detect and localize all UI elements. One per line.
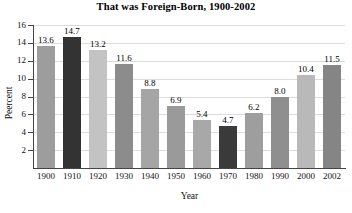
bar[interactable] [37,46,55,168]
x-tick-label: 1930 [111,171,137,181]
x-axis-title: Year [33,191,346,201]
y-tick-label: 16 [2,21,26,30]
y-tick-mark [28,114,33,115]
x-tick-label: 1950 [163,171,189,181]
bar-value-label: 13.2 [90,40,106,49]
bar-value-label: 6.9 [170,96,181,105]
y-tick-mark [28,79,33,80]
y-tick-mark [28,150,33,151]
bar-value-label: 5.4 [196,110,207,119]
x-tick-label: 1990 [267,171,293,181]
bar-group: 5.4 [193,25,211,168]
bar-group: 8.0 [271,25,289,168]
bar-group: 13.6 [37,25,55,168]
x-tick-label: 1910 [59,171,85,181]
y-tick-label: 4 [2,128,26,137]
x-tick-label: 2000 [293,171,319,181]
bar[interactable] [167,106,185,168]
x-tick-label: 1970 [215,171,241,181]
bar-value-label: 13.6 [38,36,54,45]
bar-chart-figure: That was Foreign-Born, 1900-2002 Peercen… [0,0,352,213]
bar-group: 8.8 [141,25,159,168]
bar-group: 10.4 [297,25,315,168]
y-tick-mark [28,97,33,98]
chart-title: That was Foreign-Born, 1900-2002 [0,1,352,12]
bar-value-label: 14.7 [64,27,80,36]
bar[interactable] [297,75,315,168]
bar-group: 13.2 [89,25,107,168]
bar-group: 11.6 [115,25,133,168]
bar-value-label: 4.7 [222,116,233,125]
y-tick-label: 6 [2,110,26,119]
bar[interactable] [245,113,263,168]
bar[interactable] [219,126,237,168]
y-tick-label: 2 [2,146,26,155]
x-tick-label: 1980 [241,171,267,181]
bar-value-label: 8.8 [144,79,155,88]
bar-value-label: 10.4 [298,65,314,74]
bar-group: 4.7 [219,25,237,168]
bar-value-label: 11.6 [116,54,131,63]
y-tick-label: 8 [2,92,26,101]
bar[interactable] [63,37,81,168]
x-tick-label: 1960 [189,171,215,181]
x-tick-label: 1900 [33,171,59,181]
bar-group: 11.5 [323,25,341,168]
bar-value-label: 11.5 [324,55,339,64]
bar-group: 6.2 [245,25,263,168]
bar-group: 6.9 [167,25,185,168]
y-tick-mark [28,25,33,26]
bar-value-label: 6.2 [248,103,259,112]
y-tick-mark [28,43,33,44]
y-axis-line [33,25,34,169]
x-axis-line [33,168,346,169]
bar[interactable] [323,65,341,168]
y-tick-label: 10 [2,74,26,83]
bar-group: 14.7 [63,25,81,168]
bar[interactable] [89,50,107,168]
bar[interactable] [141,89,159,168]
bar[interactable] [115,64,133,168]
y-tick-mark [28,132,33,133]
x-tick-label: 1940 [137,171,163,181]
x-tick-label: 1920 [85,171,111,181]
y-tick-label: 12 [2,56,26,65]
bar-value-label: 8.0 [274,87,285,96]
y-tick-label: 14 [2,38,26,47]
plot-area: 13.614.713.211.68.86.95.44.76.28.010.411… [33,25,345,168]
bar[interactable] [193,120,211,168]
x-tick-label: 2002 [319,171,345,181]
bar[interactable] [271,97,289,169]
y-tick-mark [28,61,33,62]
